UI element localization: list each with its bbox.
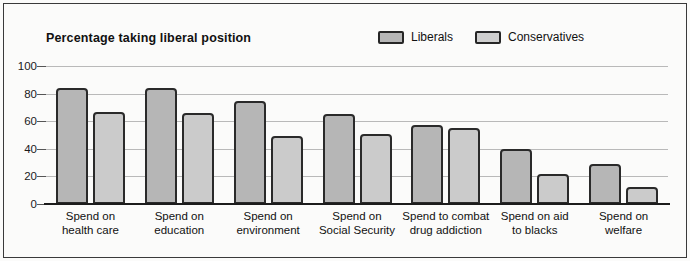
x-axis-category-label: Spend onwelfare bbox=[579, 209, 668, 237]
bar-conservatives bbox=[93, 112, 125, 204]
bar-conservatives bbox=[626, 187, 658, 204]
x-axis-category-label: Spend to combatdrug addiction bbox=[401, 209, 490, 237]
gridline bbox=[46, 176, 668, 177]
chart-figure: Percentage taking liberal position Liber… bbox=[0, 0, 690, 261]
gridline bbox=[46, 66, 668, 67]
bar-liberals bbox=[56, 88, 88, 204]
bar-liberals bbox=[145, 88, 177, 204]
y-axis-tick bbox=[37, 121, 46, 122]
gridline bbox=[46, 149, 668, 150]
x-axis-category-label: Spend onSocial Security bbox=[313, 209, 402, 237]
chart-title: Percentage taking liberal position bbox=[46, 31, 251, 45]
x-axis-category-label: Spend onhealth care bbox=[46, 209, 135, 237]
bar-liberals bbox=[589, 164, 621, 204]
y-axis-tick bbox=[37, 149, 46, 150]
bar-conservatives bbox=[360, 134, 392, 204]
legend-item-conservatives: Conservatives bbox=[475, 30, 584, 44]
bar-conservatives bbox=[271, 136, 303, 204]
gridline bbox=[46, 121, 668, 122]
legend-swatch-conservatives bbox=[475, 31, 501, 44]
y-axis-tick-label: 40 bbox=[24, 143, 37, 155]
y-axis-labels: 020406080100 bbox=[12, 66, 37, 204]
chart-legend: Liberals Conservatives bbox=[378, 30, 584, 44]
legend-item-liberals: Liberals bbox=[378, 30, 453, 44]
x-axis-category-label: Spend oneducation bbox=[135, 209, 224, 237]
bar-conservatives bbox=[182, 113, 214, 204]
y-axis-tick-label: 100 bbox=[18, 60, 37, 72]
legend-swatch-liberals bbox=[378, 31, 404, 44]
x-axis-line bbox=[44, 203, 670, 205]
y-axis-tick bbox=[37, 94, 46, 95]
x-axis-category-label: Spend on aidto blacks bbox=[490, 209, 579, 237]
plot-area bbox=[46, 66, 668, 204]
x-axis-category-label: Spend onenvironment bbox=[224, 209, 313, 237]
bar-conservatives bbox=[537, 174, 569, 204]
x-axis-labels: Spend onhealth careSpend oneducationSpen… bbox=[46, 209, 668, 245]
y-axis-tick-label: 60 bbox=[24, 115, 37, 127]
gridline bbox=[46, 94, 668, 95]
bar-liberals bbox=[500, 149, 532, 204]
y-axis-tick bbox=[37, 176, 46, 177]
bar-liberals bbox=[234, 101, 266, 205]
legend-label-conservatives: Conservatives bbox=[508, 30, 584, 44]
legend-label-liberals: Liberals bbox=[411, 30, 453, 44]
y-axis-tick-label: 80 bbox=[24, 88, 37, 100]
y-axis-tick-label: 20 bbox=[24, 170, 37, 182]
y-axis-tick bbox=[37, 66, 46, 67]
bar-liberals bbox=[411, 125, 443, 204]
bar-conservatives bbox=[448, 128, 480, 204]
bar-liberals bbox=[323, 114, 355, 204]
